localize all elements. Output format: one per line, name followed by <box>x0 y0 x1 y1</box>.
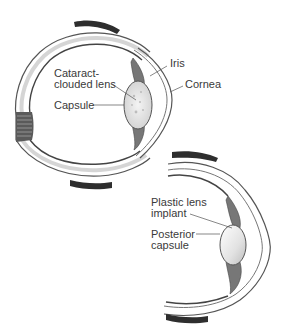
upper-eye-muscle <box>74 20 120 34</box>
label-iris: Iris <box>170 58 185 69</box>
eye-illustrations <box>0 0 285 330</box>
label-cornea: Cornea <box>185 79 221 90</box>
label-implant-line2: implant <box>151 208 186 219</box>
label-capsule: Capsule <box>54 100 94 111</box>
diagram-canvas: Iris Cornea Cataract- clouded lens Capsu… <box>0 0 285 330</box>
optic-nerve <box>16 112 34 142</box>
eye-before-surgery <box>16 20 183 189</box>
cataract-lens <box>124 81 152 129</box>
plastic-lens-implant <box>220 225 246 265</box>
label-cataract-line2: clouded lens <box>54 79 116 90</box>
iris-upper-2 <box>226 196 240 228</box>
label-posterior-line2: capsule <box>151 240 189 251</box>
upper-eye-muscle-2 <box>172 151 218 162</box>
lower-eye-muscle <box>70 180 112 189</box>
